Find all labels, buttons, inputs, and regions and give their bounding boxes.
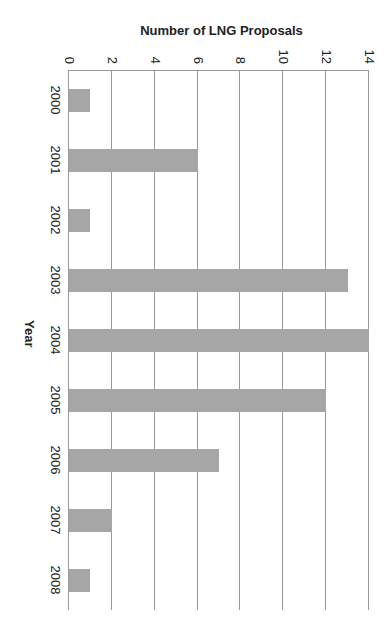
x-tick-label: 2005	[48, 375, 63, 425]
bar-2003	[69, 269, 348, 292]
bar-chart: Number of LNG Proposals 02468101214 2000…	[0, 0, 389, 631]
y-tick-label: 6	[191, 40, 206, 64]
x-axis-label: Year	[22, 320, 37, 347]
x-tick-label: 2004	[48, 315, 63, 365]
plot-area	[69, 70, 369, 610]
bar-2000	[69, 89, 90, 112]
bar-2001	[69, 149, 198, 172]
y-tick-label: 2	[105, 40, 120, 64]
bar-2005	[69, 389, 326, 412]
bar-2002	[69, 209, 90, 232]
y-tick-label: 4	[148, 40, 163, 64]
x-tick-label: 2003	[48, 255, 63, 305]
x-tick-label: 2006	[48, 435, 63, 485]
x-tick-label: 2000	[48, 75, 63, 125]
y-tick-label: 14	[362, 40, 377, 64]
y-tick-label: 10	[276, 40, 291, 64]
y-axis-label: Number of LNG Proposals	[122, 23, 322, 38]
x-tick-label: 2002	[48, 195, 63, 245]
y-tick-label: 8	[233, 40, 248, 64]
x-tick-label: 2007	[48, 495, 63, 545]
x-tick-label: 2001	[48, 135, 63, 185]
y-tick-label: 12	[319, 40, 334, 64]
bar-2007	[69, 509, 112, 532]
bar-2008	[69, 569, 90, 592]
y-axis-line	[69, 70, 369, 71]
chart-stage: Number of LNG Proposals 02468101214 2000…	[0, 0, 389, 631]
bar-2004	[69, 329, 369, 352]
bar-2006	[69, 449, 219, 472]
y-tick-label: 0	[62, 40, 77, 64]
x-tick-label: 2008	[48, 555, 63, 605]
